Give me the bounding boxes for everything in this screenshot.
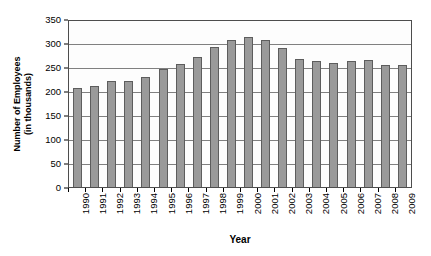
x-label-slot: 2005 (326, 193, 343, 229)
x-label-slot: 2004 (309, 193, 326, 229)
x-label-slot: 1991 (85, 193, 102, 229)
x-tick-mark (188, 188, 189, 192)
bar-slot (69, 21, 86, 187)
x-tick-mark (343, 188, 344, 192)
x-label-slot: 2009 (395, 193, 412, 229)
x-tick-mark (171, 188, 172, 192)
bar-slot (257, 21, 274, 187)
y-tick-label: 50 (50, 159, 61, 169)
bar-1996 (176, 64, 185, 187)
x-tick-mark (223, 188, 224, 192)
y-axis-tick-labels: 050100150200250300350 (36, 20, 64, 188)
x-label-slot: 2008 (378, 193, 395, 229)
x-label-slot: 1990 (68, 193, 85, 229)
x-axis-title: Year (68, 234, 412, 245)
bar-slot (206, 21, 223, 187)
y-axis-title-line-1: Number of Employees (12, 56, 23, 151)
x-label-slot: 1998 (206, 193, 223, 229)
bar-2003 (295, 59, 304, 187)
bar-1999 (227, 40, 236, 188)
bar-1994 (141, 77, 150, 187)
bar-1993 (124, 81, 133, 187)
y-tick-label: 150 (45, 111, 61, 121)
bar-1991 (90, 86, 99, 187)
x-label-slot: 1996 (171, 193, 188, 229)
y-axis-title-line-2: (in thousands) (23, 56, 34, 151)
y-axis-title: Number of Employees (in thousands) (8, 20, 38, 188)
y-tick-label: 0 (56, 183, 61, 193)
x-tick-mark (85, 188, 86, 192)
bar-slot (343, 21, 360, 187)
bar-slot (240, 21, 257, 187)
x-tick-mark (292, 188, 293, 192)
x-tick-mark (257, 188, 258, 192)
x-tick-mark (309, 188, 310, 192)
x-tick-mark (206, 188, 207, 192)
x-axis-tick-labels: 1990199119921993199419951996199719981999… (68, 193, 412, 229)
x-label-slot: 2006 (343, 193, 360, 229)
x-tick-mark (360, 188, 361, 192)
bar-slot (137, 21, 154, 187)
bar-slot (360, 21, 377, 187)
x-label-slot: 1999 (223, 193, 240, 229)
x-tick-mark (274, 188, 275, 192)
x-label-slot: 2002 (274, 193, 291, 229)
bar-2000 (244, 37, 253, 187)
bar-slot (120, 21, 137, 187)
x-label-slot: 1995 (154, 193, 171, 229)
bar-2008 (381, 65, 390, 187)
y-tick-label: 350 (45, 15, 61, 25)
bar-1990 (73, 88, 82, 187)
y-tick-label: 300 (45, 39, 61, 49)
plot-area (68, 20, 412, 188)
bar-slot (394, 21, 411, 187)
x-tick-mark (326, 188, 327, 192)
x-label-slot: 2003 (292, 193, 309, 229)
x-tick-mark (68, 188, 69, 192)
x-label-slot: 2001 (257, 193, 274, 229)
bar-2004 (312, 61, 321, 187)
x-label-slot: 1992 (102, 193, 119, 229)
x-label-slot: 2007 (360, 193, 377, 229)
bar-slot (154, 21, 171, 187)
bar-2001 (261, 40, 270, 188)
bar-slot (86, 21, 103, 187)
bar-1992 (107, 81, 116, 187)
x-tick-mark (395, 188, 396, 192)
bar-slot (308, 21, 325, 187)
bar-series (69, 21, 411, 187)
bar-slot (223, 21, 240, 187)
bar-slot (103, 21, 120, 187)
bar-chart-figure: Number of Employees (in thousands) 05010… (0, 0, 431, 256)
bar-1995 (159, 69, 168, 187)
bar-2007 (364, 60, 373, 187)
x-tick-mark (120, 188, 121, 192)
x-tick-label-2009: 2009 (407, 193, 417, 214)
x-label-slot: 1994 (137, 193, 154, 229)
bar-slot (377, 21, 394, 187)
bar-slot (325, 21, 342, 187)
x-tick-mark (240, 188, 241, 192)
bar-slot (172, 21, 189, 187)
bar-2006 (347, 61, 356, 187)
bar-1997 (193, 57, 202, 187)
x-label-slot: 1997 (188, 193, 205, 229)
x-tick-mark (154, 188, 155, 192)
x-tick-mark (102, 188, 103, 192)
y-tick-label: 100 (45, 135, 61, 145)
bar-slot (274, 21, 291, 187)
x-tick-mark (137, 188, 138, 192)
x-tick-mark (378, 188, 379, 192)
bar-slot (291, 21, 308, 187)
bar-2005 (329, 63, 338, 187)
x-label-slot: 2000 (240, 193, 257, 229)
bar-slot (189, 21, 206, 187)
bar-2009 (398, 65, 407, 187)
bar-2002 (278, 48, 287, 187)
x-label-slot: 1993 (120, 193, 137, 229)
y-tick-label: 250 (45, 63, 61, 73)
bar-1998 (210, 47, 219, 187)
y-tick-label: 200 (45, 87, 61, 97)
